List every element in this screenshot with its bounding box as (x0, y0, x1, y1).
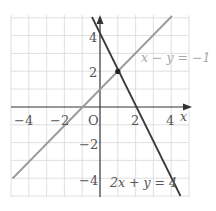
x-tick-2: 2 (131, 113, 139, 128)
equation-2x-plus-y: 2x + y = 4 (109, 175, 177, 190)
axes (11, 22, 188, 197)
x-tick-neg2: −2 (50, 113, 69, 128)
y-tick-neg2: −2 (79, 137, 98, 152)
y-tick-4: 4 (89, 30, 97, 45)
x-tick-4: 4 (166, 113, 174, 128)
coordinate-plane: −4 −2 O 2 4 x 4 2 −2 −4 x − y = −1 2x + … (0, 0, 216, 211)
y-tick-2: 2 (89, 65, 97, 80)
intersection-point (115, 69, 120, 74)
equation-x-minus-y: x − y = −1 (141, 50, 210, 65)
x-axis-label: x (180, 109, 187, 124)
y-axis-arrow-icon (97, 15, 104, 24)
x-tick-neg4: −4 (14, 113, 33, 128)
origin-label: O (88, 113, 99, 128)
y-tick-neg4: −4 (79, 173, 98, 188)
